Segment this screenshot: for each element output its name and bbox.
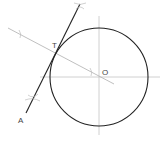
construction-arc-marks [19,3,92,101]
label-tangent-point: T [52,41,57,50]
tangent-construction-diagram: T O A [0,0,164,142]
label-center: O [102,68,108,77]
radius-construction-line [8,28,114,84]
label-external-point: A [18,116,24,125]
